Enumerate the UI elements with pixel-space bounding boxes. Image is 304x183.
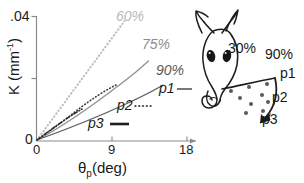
y-axis-title-base: K (mm (5, 51, 22, 95)
pelage-dot (260, 93, 264, 97)
pelage-dot (266, 100, 270, 104)
eye-left-icon (205, 49, 216, 63)
muzzle-outline (207, 91, 220, 106)
series-60-percent-curve (37, 21, 125, 140)
y-axis-title: K (mm-1) (5, 31, 22, 103)
y-axis-title-superscript: -1 (5, 43, 15, 51)
x-tick-label-18: 18 (179, 143, 193, 156)
x-axis-title: θp(deg) (78, 159, 127, 179)
pelage-dot (238, 96, 242, 100)
nose-mark (210, 98, 217, 100)
y-tick-label-zero: 0 (25, 132, 33, 146)
schematic-label-30-percent: 30% (228, 41, 256, 55)
pelage-dot (249, 102, 253, 106)
series-90-percent-curve (37, 85, 163, 140)
y-axis-title-close: ) (5, 38, 22, 43)
pelage-dot (265, 82, 269, 86)
eye-highlight-right (225, 52, 227, 54)
pelage-dot (244, 111, 248, 115)
legend-label-p2: p2 (117, 98, 133, 112)
antler-right (226, 10, 238, 31)
antler-left (196, 11, 208, 33)
x-tick-label-9: 9 (108, 143, 115, 156)
schematic-label-p3: p3 (262, 112, 278, 126)
x-tick-label-0: 0 (33, 143, 40, 156)
schematic-label-p2: p2 (272, 90, 288, 104)
curve-label-60-percent: 60% (116, 9, 144, 23)
figure-root: .04 0 0 9 18 θp(deg) K (mm-1) 60% 75% 90… (0, 0, 304, 183)
pelage-dot (247, 85, 251, 89)
curve-label-75-percent: 75% (142, 37, 170, 51)
legend-label-p3: p3 (88, 116, 104, 130)
eye-highlight-left (209, 52, 211, 54)
schematic-label-90-percent: 90% (265, 47, 293, 61)
schematic-label-p1: p1 (280, 66, 296, 80)
legend-label-p1: p1 (159, 81, 175, 95)
x-axis-title-unit: (deg) (92, 159, 127, 176)
curve-label-90-percent: 90% (156, 63, 184, 77)
pelage-dot (229, 89, 233, 93)
y-tick-label-top: .04 (10, 9, 29, 23)
